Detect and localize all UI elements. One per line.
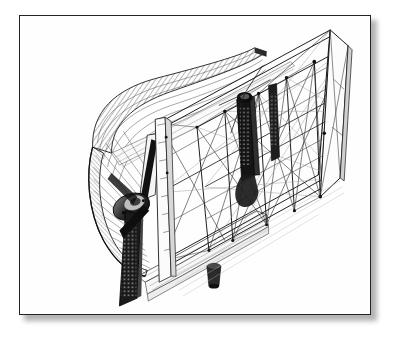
wireframe-illustration <box>20 16 370 314</box>
end-frame <box>320 30 352 197</box>
base-cylinder <box>207 263 221 288</box>
deck-platform <box>137 211 268 301</box>
front-rails <box>155 117 176 282</box>
picture-frame <box>19 15 371 315</box>
page-root <box>0 0 394 342</box>
frame-inner-surface <box>20 16 370 314</box>
